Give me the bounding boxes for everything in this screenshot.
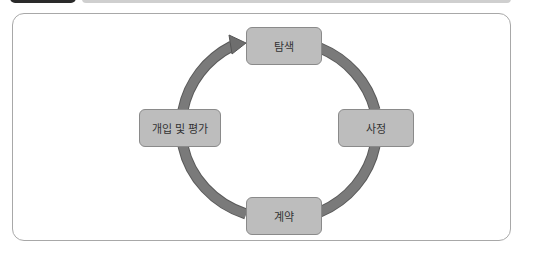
arc-top-right <box>320 48 375 110</box>
arc-bottom-left <box>183 146 246 214</box>
node-label: 탐색 <box>274 38 294 54</box>
node-label: 사정 <box>366 120 386 136</box>
arrowhead-icon <box>229 35 246 54</box>
node-label: 개입 및 평가 <box>152 120 209 136</box>
node-intervention-evaluation: 개입 및 평가 <box>139 109 221 147</box>
node-label: 계약 <box>274 208 294 224</box>
node-assessment: 사정 <box>338 109 414 147</box>
node-explore: 탐색 <box>246 27 322 65</box>
node-contract: 계약 <box>246 197 322 235</box>
arc-right-bottom <box>320 146 375 212</box>
arc-left-top <box>183 46 232 110</box>
